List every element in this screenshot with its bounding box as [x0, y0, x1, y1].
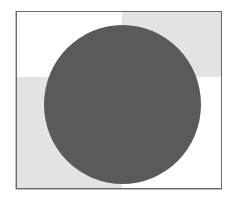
figure-frame [16, 11, 222, 189]
dark-circle [44, 25, 201, 184]
